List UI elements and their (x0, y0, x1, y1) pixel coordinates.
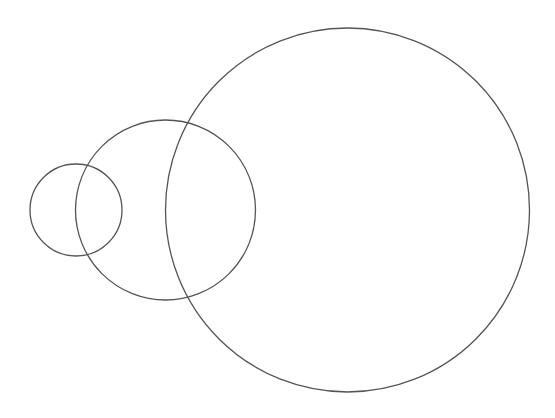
diagram-canvas (0, 0, 555, 418)
large-circle (166, 28, 530, 392)
